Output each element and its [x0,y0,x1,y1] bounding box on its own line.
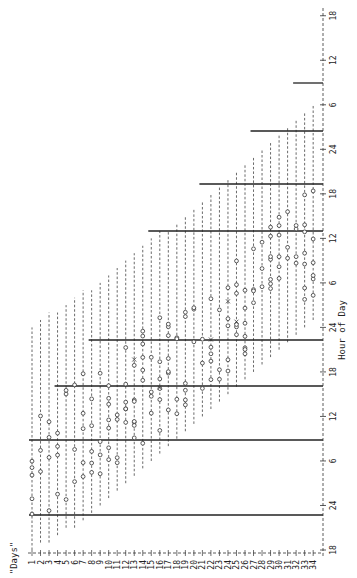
event-markers [30,189,315,516]
hour-axis: 18246121824612182461218 [320,8,338,556]
hour-tick-label: 24 [329,144,338,154]
hour-tick-label: 6 [329,458,338,463]
hour-tick-label: 6 [329,280,338,285]
days-axis-title: "Days" [9,542,19,575]
hour-tick-label: 24 [329,500,338,510]
hour-axis-title: Hour of Day [337,300,347,360]
hour-tick-label: 18 [329,11,338,21]
hour-tick-label: 18 [329,189,338,199]
hour-tick-label: 18 [329,545,338,555]
day-tick-label: 34 [309,560,318,570]
hour-tick-label: 6 [329,102,338,107]
day-axis: 1234567891011121314151617181920212223242… [28,550,323,570]
hour-tick-label: 12 [329,233,338,243]
hour-tick-label: 12 [329,55,338,65]
hour-tick-label: 18 [329,367,338,377]
actogram-chart: 18246121824612182461218 1234567891011121… [0,0,357,578]
hour-tick-label: 12 [329,411,338,421]
